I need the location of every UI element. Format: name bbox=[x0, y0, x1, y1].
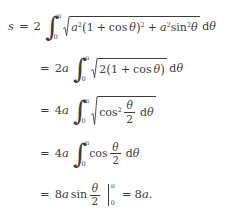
integral-operator: ∫ π 0 bbox=[45, 14, 60, 39]
equation-line-1: s = 2 ∫ π 0 a2(1+cosθ)2+a2sin2θ dθ bbox=[8, 14, 216, 39]
integral-limits-4: π 0 bbox=[84, 141, 88, 166]
coefficient-variable-4: a bbox=[62, 146, 69, 160]
result-variable: a bbox=[142, 187, 149, 201]
lhs-variable: s bbox=[8, 21, 14, 33]
radical-sign-icon-3 bbox=[91, 96, 98, 126]
integral-lower-limit-3: 0 bbox=[81, 118, 85, 125]
integral-lower-limit-2: 0 bbox=[81, 76, 85, 83]
math-derivation: s = 2 ∫ π 0 a2(1+cosθ)2+a2sin2θ dθ = 2a bbox=[0, 0, 236, 224]
square-root: a2(1+cosθ)2+a2sin2θ bbox=[63, 16, 199, 37]
integral-operator-4: ∫ π 0 bbox=[73, 141, 88, 166]
equation-line-5: = 8a sin θ 2 π 0 =8a. bbox=[40, 183, 152, 207]
close-paren-2: ) bbox=[160, 64, 165, 76]
fraction-numerator-3: θ bbox=[124, 100, 134, 112]
coefficient-number-5: 8 bbox=[55, 187, 62, 201]
evaluation-lower-limit: 0 bbox=[111, 200, 115, 207]
plus-sign-3: + bbox=[121, 64, 130, 75]
equals-sign-5: = bbox=[40, 189, 50, 201]
evaluation-upper-limit: π bbox=[111, 183, 115, 190]
plus-sign-1: + bbox=[97, 22, 106, 33]
coefficient-3: 4a bbox=[55, 105, 69, 117]
result-number: 8 bbox=[135, 187, 142, 201]
coefficient-5: 8a bbox=[55, 189, 69, 201]
differential-d-3: d bbox=[140, 106, 147, 119]
coefficient: 2 bbox=[34, 21, 41, 33]
integral-lower-limit: 0 bbox=[53, 34, 57, 41]
differential-3: dθ bbox=[140, 107, 154, 118]
differential-theta-3: θ bbox=[147, 106, 154, 119]
coefficient-variable-5: a bbox=[62, 187, 69, 201]
close-paren-1: ) bbox=[136, 22, 141, 34]
evaluation-bar: π 0 bbox=[108, 184, 115, 206]
term-a-1: a bbox=[71, 22, 78, 33]
integral-lower-limit-4: 0 bbox=[81, 161, 85, 168]
term-a-2: a bbox=[160, 22, 167, 33]
cos-function-4: cos bbox=[89, 148, 107, 159]
theta-3: θ bbox=[154, 64, 161, 75]
fraction-denominator-5: 2 bbox=[90, 195, 101, 207]
evaluation-rule bbox=[108, 184, 109, 206]
coefficient-number-2: 2 bbox=[55, 61, 62, 75]
fraction-denominator-4: 2 bbox=[110, 154, 121, 166]
differential-2: dθ bbox=[169, 63, 183, 74]
cos-function: cos bbox=[109, 22, 127, 33]
theta-1: θ bbox=[129, 22, 136, 33]
fraction-theta-over-two-5: θ 2 bbox=[90, 183, 101, 207]
differential-theta-1: θ bbox=[209, 20, 216, 33]
integral-upper-limit: π bbox=[57, 13, 61, 20]
equals-sign-2: = bbox=[40, 63, 50, 75]
coefficient-number-3: 4 bbox=[55, 103, 62, 117]
equation-line-4: = 4a ∫ π 0 cos θ 2 dθ bbox=[40, 141, 139, 166]
radical-sign-icon bbox=[63, 16, 70, 37]
differential-4: dθ bbox=[126, 148, 140, 159]
differential-theta-2: θ bbox=[176, 62, 183, 75]
square-root-2: 2(1+cosθ) bbox=[91, 58, 167, 79]
integral-upper-limit-4: π bbox=[85, 140, 89, 147]
cos-function-3: cos bbox=[99, 107, 117, 118]
equals-sign: = bbox=[19, 21, 29, 33]
final-result: =8a. bbox=[122, 189, 152, 201]
theta-2: θ bbox=[191, 22, 198, 33]
radicand: a2(1+cosθ)2+a2sin2θ bbox=[70, 16, 199, 37]
fraction-numerator-4: θ bbox=[110, 142, 120, 154]
equation-line-3: = 4a ∫ π 0 cos2 θ 2 dθ bbox=[40, 96, 156, 126]
radical-sign-icon-2 bbox=[91, 58, 98, 79]
equals-sign-4: = bbox=[40, 148, 50, 160]
term-two-2: 2 bbox=[99, 64, 106, 75]
result-period: . bbox=[149, 187, 153, 201]
fraction-theta-over-two-3: θ 2 bbox=[124, 100, 135, 124]
integral-upper-limit-3: π bbox=[85, 98, 89, 105]
plus-sign-2: + bbox=[148, 22, 157, 33]
integral-limits-3: π 0 bbox=[84, 99, 88, 124]
square-root-3: cos2 θ 2 dθ bbox=[91, 96, 155, 126]
differential-1: dθ bbox=[202, 21, 216, 32]
integral-operator-3: ∫ π 0 bbox=[73, 99, 88, 124]
integral-operator-2: ∫ π 0 bbox=[73, 56, 88, 81]
coefficient-2: 2a bbox=[55, 63, 69, 75]
integral-limits: π 0 bbox=[56, 14, 60, 39]
evaluation-limits: π 0 bbox=[111, 184, 115, 206]
result-equals-sign: = bbox=[122, 187, 132, 201]
coefficient-variable-3: a bbox=[62, 103, 69, 117]
fraction-numerator-5: θ bbox=[90, 183, 100, 195]
coefficient-variable-2: a bbox=[62, 61, 69, 75]
fraction-theta-over-two-4: θ 2 bbox=[110, 142, 121, 166]
term-one: 1 bbox=[87, 22, 94, 33]
integral-upper-limit-2: π bbox=[85, 55, 89, 62]
differential-theta-4: θ bbox=[133, 147, 140, 160]
coefficient-4: 4a bbox=[55, 148, 69, 160]
radicand-2: 2(1+cosθ) bbox=[98, 58, 167, 79]
differential-d-4: d bbox=[126, 147, 133, 160]
term-one-2: 1 bbox=[111, 64, 118, 75]
radicand-3: cos2 θ 2 dθ bbox=[98, 96, 155, 126]
sin-function-5: sin bbox=[71, 189, 87, 200]
fraction-denominator-3: 2 bbox=[124, 113, 135, 125]
sin-function: sin bbox=[171, 22, 187, 33]
equation-line-2: = 2a ∫ π 0 2(1+cosθ) dθ bbox=[40, 56, 183, 81]
integral-limits-2: π 0 bbox=[84, 56, 88, 81]
cos-function-2: cos bbox=[133, 64, 151, 75]
equals-sign-3: = bbox=[40, 105, 50, 117]
coefficient-number-4: 4 bbox=[55, 146, 62, 160]
